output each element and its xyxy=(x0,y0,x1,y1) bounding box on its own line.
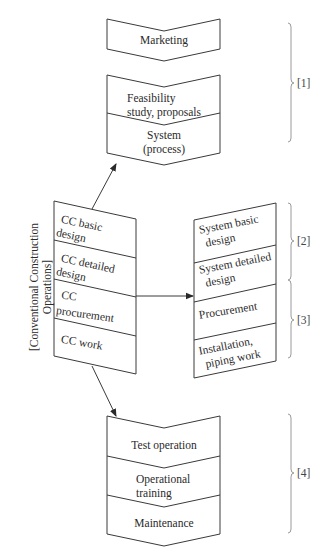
feasibility-label-2: study, proposals xyxy=(127,106,202,119)
process-diagram: Marketing Feasibility study, proposals S… xyxy=(0,0,333,558)
cc-column: CC basic design CC detailed design CC pr… xyxy=(54,201,136,374)
brace-4: [4] xyxy=(288,414,310,533)
system-label-1: System xyxy=(147,129,181,142)
brace-label-2: [2] xyxy=(297,235,310,247)
arrow-to-system xyxy=(92,164,116,209)
training-label-1: Operational xyxy=(136,473,190,486)
operations-block: Test operation Operational training Main… xyxy=(107,416,220,546)
cc-side-label: [Conventional Construction Operations] xyxy=(28,223,54,351)
brace-label-4: [4] xyxy=(297,467,310,479)
feasibility-label-1: Feasibility xyxy=(127,92,176,105)
marketing-step: Marketing xyxy=(107,19,220,61)
feasibility-system-block: Feasibility study, proposals System (pro… xyxy=(107,75,220,165)
svg-text:[Conventional Construction: [Conventional Construction xyxy=(28,223,40,351)
brace-label-3: [3] xyxy=(297,314,310,326)
brace-1: [1] xyxy=(288,23,310,142)
system-label-2: (process) xyxy=(143,143,185,156)
maintenance-label: Maintenance xyxy=(134,517,193,529)
cc-procurement-1: CC xyxy=(61,289,78,303)
brace-2: [2] xyxy=(288,203,310,280)
system-column: System basic design System detailed desi… xyxy=(194,203,276,378)
svg-text:Operations]: Operations] xyxy=(41,260,54,314)
brace-3: [3] xyxy=(288,280,310,358)
training-label-2: training xyxy=(136,487,172,500)
arrow-to-test-operation xyxy=(92,366,116,416)
test-operation-label: Test operation xyxy=(131,439,197,452)
marketing-label: Marketing xyxy=(140,34,188,47)
brace-label-1: [1] xyxy=(297,77,310,89)
